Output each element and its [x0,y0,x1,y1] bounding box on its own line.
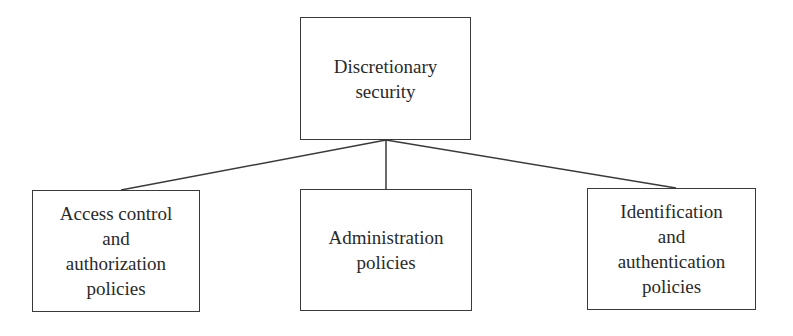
edge-root-to-ident [386,140,676,188]
node-access-control-authorization-policies: Access control and authorization policie… [32,190,200,312]
edge-root-to-access [121,140,386,190]
node-label: Administration policies [328,225,443,275]
node-identification-authentication-policies: Identification and authentication polici… [587,188,756,310]
node-administration-policies: Administration policies [300,189,472,311]
node-label: Identification and authentication polici… [618,199,726,299]
node-label: Discretionary security [334,54,437,104]
node-label: Access control and authorization policie… [60,201,172,301]
node-discretionary-security: Discretionary security [300,17,471,140]
